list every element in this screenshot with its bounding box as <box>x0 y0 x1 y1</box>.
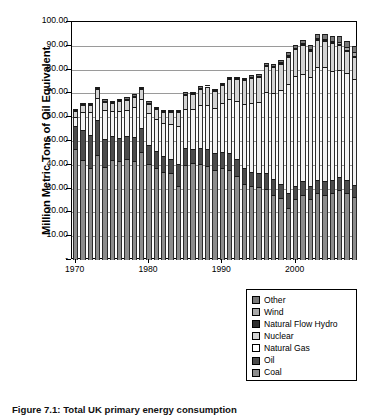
bar-segment-natural-gas <box>256 102 261 173</box>
bar-segment-nuclear <box>352 57 357 80</box>
y-axis-tick-label: 40.00 <box>8 159 68 168</box>
legend-item-coal[interactable]: Coal <box>252 367 356 379</box>
bar-segment-oil <box>344 180 349 193</box>
bar-segment-coal <box>249 186 254 260</box>
bar-segment-nuclear <box>205 87 210 105</box>
bar-segment-other <box>198 86 203 87</box>
bar-segment-coal <box>205 166 210 260</box>
bar-segment-coal <box>308 199 313 260</box>
bar-segment-nuclear <box>198 89 203 106</box>
bar-segment-other <box>80 103 85 104</box>
bar-segment-wind <box>256 76 261 77</box>
bar-segment-nuclear <box>168 112 173 124</box>
bar-1978 <box>132 22 137 258</box>
bar-segment-other <box>168 110 173 111</box>
bar-segment-coal <box>95 155 100 260</box>
bar-segment-coal <box>344 193 349 260</box>
bar-segment-other <box>264 63 269 65</box>
bar-segment-other <box>300 40 305 43</box>
bar-segment-natural-flow-hydro <box>344 50 349 51</box>
bar-segment-natural-flow-hydro <box>80 104 85 105</box>
bar-segment-natural-gas <box>198 105 203 148</box>
bar-segment-wind <box>300 43 305 44</box>
bar-1989 <box>212 22 217 258</box>
legend-item-other[interactable]: Other <box>252 294 356 306</box>
bar-segment-natural-flow-hydro <box>124 99 129 100</box>
bar-segment-nuclear <box>322 41 327 67</box>
bar-segment-coal <box>286 208 291 260</box>
bar-segment-coal <box>124 159 129 260</box>
bar-segment-oil <box>198 148 203 163</box>
bar-segment-oil <box>154 151 159 168</box>
legend-item-label: Coal <box>264 368 282 377</box>
bar-segment-nuclear <box>344 51 349 74</box>
legend-item-natural-flow-hydro[interactable]: Natural Flow Hydro <box>252 318 356 330</box>
bar-segment-natural-flow-hydro <box>73 110 78 111</box>
figure-caption: Figure 7.1: Total UK primary energy cons… <box>12 404 237 415</box>
bar-2005 <box>330 22 335 258</box>
bar-segment-nuclear <box>286 57 291 84</box>
bar-segment-other <box>190 92 195 93</box>
bar-segment-natural-flow-hydro <box>154 108 159 109</box>
bar-segment-natural-gas <box>337 70 342 177</box>
bar-segment-coal <box>80 160 85 260</box>
legend-swatch-icon <box>252 320 260 328</box>
bar-segment-natural-flow-hydro <box>352 56 357 57</box>
bar-segment-nuclear <box>227 79 232 99</box>
bar-1971 <box>80 22 85 258</box>
legend-item-natural-gas[interactable]: Natural Gas <box>252 342 356 354</box>
bar-segment-oil <box>146 145 151 164</box>
bar-segment-coal <box>117 161 122 260</box>
bar-segment-coal <box>330 193 335 260</box>
bar-segment-natural-flow-hydro <box>176 111 181 112</box>
x-axis-tick-mark <box>221 259 222 263</box>
bar-segment-oil <box>183 148 188 165</box>
bar-segment-other <box>308 45 313 49</box>
bar-segment-other <box>102 99 107 100</box>
bar-segment-wind <box>330 41 335 42</box>
legend-item-nuclear[interactable]: Nuclear <box>252 330 356 342</box>
bar-segment-other <box>242 78 247 80</box>
bar-segment-nuclear <box>242 80 247 104</box>
bar-segment-natural-gas <box>286 84 291 193</box>
bar-segment-natural-gas <box>146 113 151 145</box>
bar-segment-nuclear <box>154 109 159 119</box>
bar-segment-oil <box>300 181 305 194</box>
bar-1997 <box>271 22 276 258</box>
bar-2001 <box>300 22 305 258</box>
bar-segment-oil <box>190 149 195 163</box>
x-axis-tick-label: 1970 <box>55 264 95 274</box>
bar-segment-natural-gas <box>352 79 357 185</box>
y-axis-tick-label: - <box>8 254 68 263</box>
bar-segment-other <box>110 101 115 102</box>
bar-segment-nuclear <box>146 104 151 114</box>
bar-segment-wind <box>278 62 283 63</box>
bar-segment-oil <box>337 177 342 190</box>
bar-segment-oil <box>73 126 78 150</box>
legend-item-label: Wind <box>264 308 284 317</box>
bar-segment-natural-gas <box>88 112 93 135</box>
bar-segment-oil <box>227 153 232 170</box>
bar-segment-nuclear <box>278 64 283 90</box>
bar-segment-other <box>73 109 78 110</box>
bar-segment-natural-gas <box>227 99 232 153</box>
bar-segment-other <box>234 77 239 79</box>
bar-segment-nuclear <box>234 79 239 100</box>
legend-item-label: Natural Flow Hydro <box>264 320 338 329</box>
bar-segment-coal <box>352 197 357 260</box>
bar-segment-coal <box>146 164 151 260</box>
legend-item-wind[interactable]: Wind <box>252 306 356 318</box>
bar-segment-nuclear <box>117 101 122 111</box>
bar-segment-natural-flow-hydro <box>190 93 195 94</box>
bar-segment-oil <box>205 149 210 166</box>
y-axis-tick-label: 70.00 <box>8 87 68 96</box>
bar-segment-coal <box>154 168 159 260</box>
bar-segment-coal <box>190 163 195 260</box>
bar-segment-natural-flow-hydro <box>88 104 93 105</box>
bar-1979 <box>139 22 144 258</box>
bar-segment-oil <box>234 159 239 176</box>
bar-1998 <box>278 22 283 258</box>
bar-segment-natural-flow-hydro <box>132 96 137 97</box>
y-axis-tick-label: 30.00 <box>8 183 68 192</box>
legend-item-oil[interactable]: Oil <box>252 354 356 366</box>
